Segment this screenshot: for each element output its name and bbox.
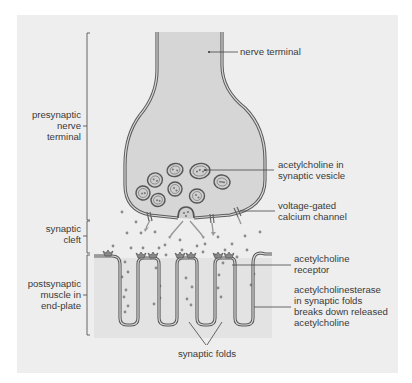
label-calcium-line2: calcium channel xyxy=(278,211,347,222)
label-esterase-line1: acetylcholinesterase xyxy=(294,284,381,295)
label-nerve-terminal: nerve terminal xyxy=(240,46,301,57)
label-calcium-line1: voltage-gated xyxy=(278,200,336,211)
svg-text:terminal: terminal xyxy=(47,131,81,142)
label-synaptic-folds: synaptic folds xyxy=(178,348,236,359)
label-esterase-line4: acetylcholine xyxy=(294,317,349,328)
neuromuscular-junction-diagram: presynaptic nerve terminal synaptic clef… xyxy=(0,0,412,383)
svg-text:end-plate: end-plate xyxy=(41,300,81,311)
svg-text:presynaptic: presynaptic xyxy=(32,109,81,120)
svg-text:synaptic: synaptic xyxy=(46,223,81,234)
label-esterase-line3: breaks down released xyxy=(294,306,388,317)
svg-text:muscle in: muscle in xyxy=(40,289,81,300)
label-vesicle-line2: synaptic vesicle xyxy=(278,170,345,181)
label-receptor-line2: receptor xyxy=(294,264,330,275)
label-esterase-line2: in synaptic folds xyxy=(294,295,362,306)
label-receptor-line1: acetylcholine xyxy=(294,253,349,264)
svg-text:nerve: nerve xyxy=(57,120,81,131)
label-vesicle-line1: acetylcholine in xyxy=(278,159,344,170)
svg-text:cleft: cleft xyxy=(63,234,81,245)
svg-text:postsynaptic: postsynaptic xyxy=(28,278,82,289)
